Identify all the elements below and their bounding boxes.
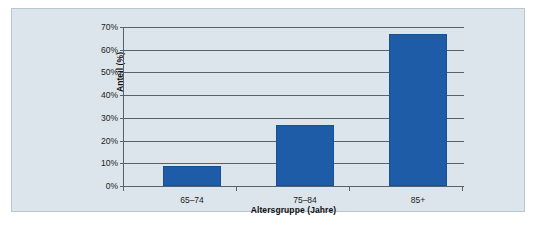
x-tick-mark-1 bbox=[236, 186, 237, 191]
y-tick-label-10: 10% bbox=[101, 158, 118, 168]
y-tick-label-50: 50% bbox=[101, 67, 118, 77]
y-tick-label-0: 0% bbox=[106, 181, 118, 191]
y-tick-mark-50 bbox=[120, 72, 124, 73]
y-tick-label-40: 40% bbox=[101, 90, 118, 100]
y-axis-line bbox=[123, 27, 124, 186]
bar-75-84[interactable] bbox=[276, 125, 334, 186]
y-tick-mark-70 bbox=[120, 27, 124, 28]
chart-figure: Anteil (%) 70% 60% 50% 40% 30% 20% 10% 0… bbox=[11, 8, 525, 212]
gridline-70 bbox=[123, 27, 464, 28]
y-tick-mark-40 bbox=[120, 95, 124, 96]
y-tick-label-70: 70% bbox=[101, 22, 118, 32]
x-tick-label-85-plus: 85+ bbox=[411, 195, 425, 205]
bar-65-74[interactable] bbox=[163, 166, 221, 186]
y-tick-label-30: 30% bbox=[101, 113, 118, 123]
bar-85-plus[interactable] bbox=[389, 34, 447, 186]
x-tick-mark-0 bbox=[123, 186, 124, 191]
y-tick-mark-60 bbox=[120, 50, 124, 51]
gridline-0-baseline bbox=[123, 186, 464, 187]
x-tick-label-65-74: 65–74 bbox=[180, 195, 204, 205]
plot-area: 70% 60% 50% 40% 30% 20% 10% 0% 65–74 75 bbox=[123, 27, 464, 186]
x-axis-title: Altersgruppe (Jahre) bbox=[123, 205, 464, 215]
x-tick-mark-2 bbox=[349, 186, 350, 191]
x-tick-label-75-84: 75–84 bbox=[293, 195, 317, 205]
y-tick-label-60: 60% bbox=[101, 45, 118, 55]
y-tick-mark-20 bbox=[120, 141, 124, 142]
y-tick-mark-10 bbox=[120, 163, 124, 164]
y-tick-label-20: 20% bbox=[101, 136, 118, 146]
x-tick-mark-3 bbox=[462, 186, 463, 191]
y-tick-mark-30 bbox=[120, 118, 124, 119]
